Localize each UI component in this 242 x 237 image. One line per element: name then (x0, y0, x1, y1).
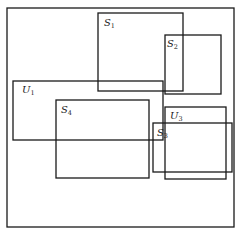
universe-rect (7, 8, 234, 227)
u1-rect (13, 81, 163, 140)
set-diagram: S1 S2 U1 S4 U3 S3 (0, 0, 242, 237)
u3-label: U3 (170, 110, 183, 123)
s2-label: S2 (167, 38, 178, 51)
s1-label: S1 (104, 17, 115, 30)
u1-label: U1 (22, 84, 35, 97)
s4-label: S4 (61, 104, 72, 117)
